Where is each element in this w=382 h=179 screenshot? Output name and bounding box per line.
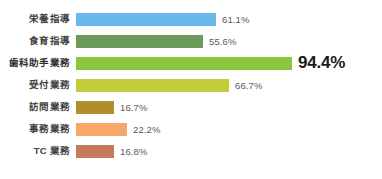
bar-fill — [76, 123, 127, 136]
bar-track — [76, 123, 127, 136]
bar-track — [76, 145, 114, 158]
horizontal-bar-chart: 栄養指導61.1%食育指導55.6%歯科助手業務94.4%受付業務66.7%訪問… — [0, 0, 382, 179]
bar-row: 訪問業務16.7% — [0, 99, 382, 121]
bar-value-label: 61.1% — [222, 12, 249, 27]
bar-category-label: 歯科助手業務 — [0, 55, 70, 71]
bar-fill — [76, 79, 229, 92]
bar-row: 事務業務22.2% — [0, 121, 382, 143]
bar-fill — [76, 35, 203, 48]
bar-category-label: 訪問業務 — [0, 99, 70, 115]
bar-track — [76, 79, 229, 92]
bar-track — [76, 101, 114, 114]
bar-track — [76, 57, 292, 70]
bar-fill — [76, 57, 292, 70]
bar-category-label: 受付業務 — [0, 77, 70, 93]
bar-fill — [76, 13, 216, 26]
bar-value-label: 94.4% — [298, 52, 345, 73]
bar-row: 受付業務66.7% — [0, 77, 382, 99]
bar-value-label: 66.7% — [235, 78, 262, 93]
bar-value-label: 16.7% — [120, 100, 147, 115]
bar-category-label: 食育指導 — [0, 33, 70, 49]
bar-row: TC 業務16.8% — [0, 143, 382, 165]
bar-fill — [76, 101, 114, 114]
bar-row: 歯科助手業務94.4% — [0, 55, 382, 77]
bar-value-label: 55.6% — [209, 34, 236, 49]
bar-value-label: 22.2% — [133, 122, 160, 137]
bar-track — [76, 35, 203, 48]
bar-row: 栄養指導61.1% — [0, 11, 382, 33]
bar-fill — [76, 145, 114, 158]
bar-track — [76, 13, 216, 26]
bar-category-label: 栄養指導 — [0, 11, 70, 27]
bar-category-label: TC 業務 — [0, 143, 70, 159]
bar-category-label: 事務業務 — [0, 121, 70, 137]
bar-value-label: 16.8% — [120, 144, 147, 159]
